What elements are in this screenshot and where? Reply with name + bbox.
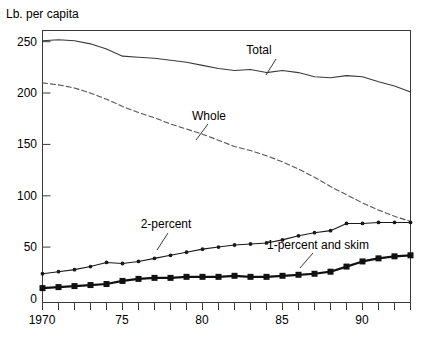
data-point-marker bbox=[328, 269, 334, 275]
y-tick-label: 200 bbox=[17, 86, 37, 100]
data-point-marker bbox=[105, 261, 109, 265]
data-point-marker bbox=[40, 285, 46, 291]
data-point-marker bbox=[137, 260, 141, 264]
data-point-marker bbox=[280, 273, 286, 279]
annotation-leaders bbox=[157, 59, 313, 268]
two-percent-leader-line bbox=[157, 233, 168, 250]
whole-leader-line bbox=[196, 124, 208, 140]
series-label-1-percent-and-skim: 1-percent and skim bbox=[267, 238, 369, 252]
data-point-marker bbox=[345, 222, 349, 226]
total-leader-line bbox=[266, 59, 276, 75]
series-label-whole: Whole bbox=[192, 109, 226, 123]
data-point-marker bbox=[392, 253, 398, 259]
x-tick-label: 80 bbox=[195, 313, 209, 327]
y-tick-label: 250 bbox=[17, 35, 37, 49]
data-point-marker bbox=[153, 256, 157, 260]
series-layer bbox=[40, 40, 414, 291]
data-point-marker bbox=[376, 255, 382, 261]
data-point-marker bbox=[184, 274, 190, 280]
series-total bbox=[43, 40, 411, 92]
y-tick-label: 50 bbox=[24, 240, 38, 254]
data-point-marker bbox=[41, 272, 45, 276]
series-label-2-percent: 2-percent bbox=[141, 217, 192, 231]
data-point-marker bbox=[264, 274, 270, 280]
data-point-marker bbox=[185, 250, 189, 254]
data-point-marker bbox=[329, 229, 333, 233]
series-path bbox=[43, 83, 411, 222]
data-point-marker bbox=[200, 274, 206, 280]
data-point-marker bbox=[104, 281, 110, 287]
chart-figure: Lb. per capita 250 200 150 100 50 0 bbox=[0, 0, 427, 337]
series-path bbox=[43, 40, 411, 92]
series-label-total: Total bbox=[246, 43, 271, 57]
one-percent-leader-line bbox=[300, 253, 313, 268]
y-tick-label: 150 bbox=[17, 137, 37, 151]
data-point-marker bbox=[249, 242, 253, 246]
data-point-marker bbox=[232, 273, 238, 279]
data-point-marker bbox=[88, 282, 94, 288]
y-axis-title: Lb. per capita bbox=[6, 7, 79, 21]
data-point-marker bbox=[233, 243, 237, 247]
series-1-percent-and-skim bbox=[40, 252, 414, 291]
data-point-marker bbox=[120, 278, 126, 284]
y-tick-label: 0 bbox=[30, 292, 37, 306]
x-tick-label: 75 bbox=[115, 313, 129, 327]
data-point-marker bbox=[217, 245, 221, 249]
data-point-marker bbox=[168, 275, 174, 281]
x-tick-label: 1970 bbox=[29, 313, 56, 327]
y-axis-ticks: 250 200 150 100 50 0 bbox=[17, 35, 51, 306]
data-point-marker bbox=[296, 272, 302, 278]
data-point-marker bbox=[360, 258, 366, 264]
series-path bbox=[43, 255, 411, 288]
data-point-marker bbox=[121, 262, 125, 266]
x-axis-ticks bbox=[43, 303, 411, 311]
y-tick-label: 100 bbox=[17, 189, 37, 203]
data-point-marker bbox=[344, 264, 350, 270]
x-axis-labels: 1970 75 80 85 90 bbox=[29, 313, 369, 327]
data-point-marker bbox=[409, 221, 413, 225]
series-whole bbox=[43, 83, 411, 222]
chart-canvas: Lb. per capita 250 200 150 100 50 0 bbox=[0, 0, 427, 337]
plot-frame bbox=[43, 31, 411, 303]
data-point-marker bbox=[248, 274, 254, 280]
x-tick-label: 90 bbox=[355, 313, 369, 327]
data-point-marker bbox=[361, 222, 365, 226]
data-point-marker bbox=[377, 221, 381, 225]
data-point-marker bbox=[56, 284, 62, 290]
data-point-marker bbox=[73, 268, 77, 272]
data-point-marker bbox=[152, 275, 158, 281]
data-point-marker bbox=[408, 252, 414, 258]
data-point-marker bbox=[89, 265, 93, 269]
data-point-marker bbox=[169, 253, 173, 257]
data-point-marker bbox=[136, 276, 142, 282]
data-point-marker bbox=[57, 270, 61, 274]
data-point-marker bbox=[393, 221, 397, 225]
data-point-marker bbox=[216, 274, 222, 280]
data-point-marker bbox=[72, 283, 78, 289]
data-point-marker bbox=[313, 231, 317, 235]
x-tick-label: 85 bbox=[275, 313, 289, 327]
data-point-marker bbox=[312, 271, 318, 277]
data-point-marker bbox=[201, 247, 205, 251]
